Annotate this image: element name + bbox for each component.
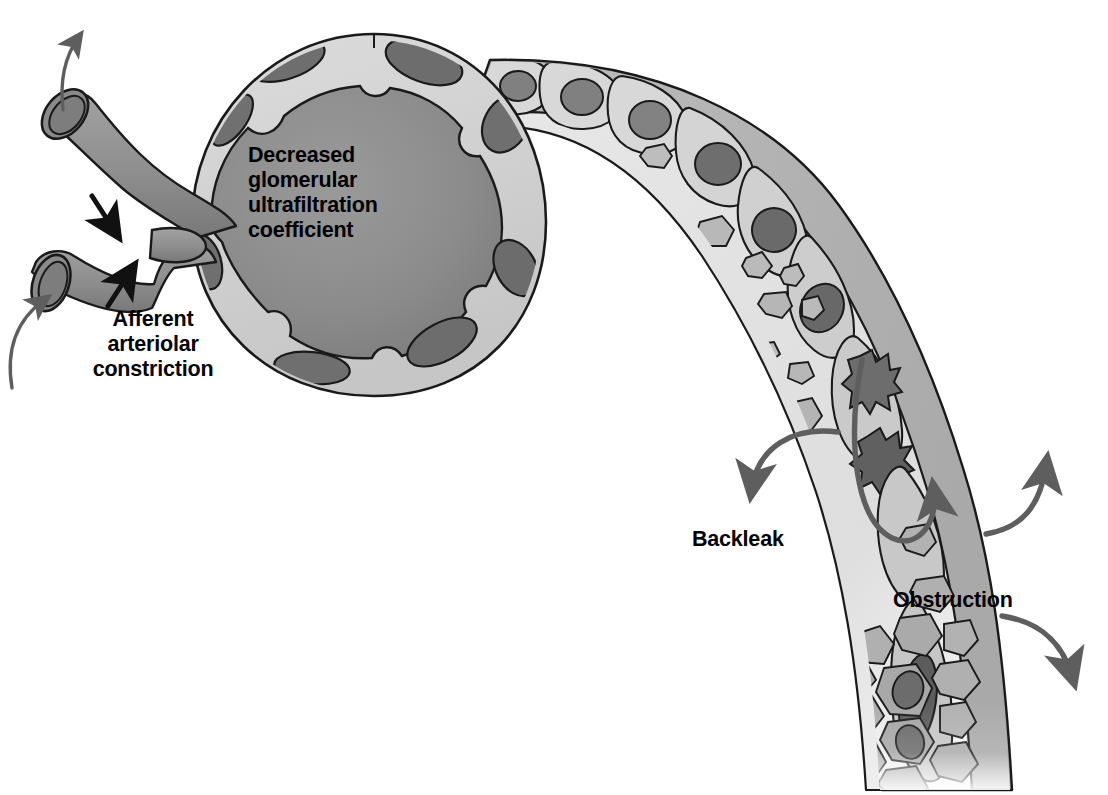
label-obstruction: Obstruction xyxy=(893,588,1013,613)
afferent-line-3: constriction xyxy=(93,357,214,381)
obstruction-pressure-arrow-upper xyxy=(986,466,1046,534)
gufc-line-2: glomerular xyxy=(248,168,357,192)
label-afferent-arteriolar-constriction: Afferentarteriolarconstriction xyxy=(88,307,218,382)
label-decreased-gufc: Decreasedglomerularultrafiltrationcoeffi… xyxy=(248,143,378,244)
figure-canvas: Decreasedglomerularultrafiltrationcoeffi… xyxy=(0,0,1108,795)
proximal-tubule xyxy=(470,57,1040,795)
constriction-arrow-upper xyxy=(92,196,114,230)
afferent-flow-arrow xyxy=(10,300,44,388)
afferent-line-2: arteriolar xyxy=(107,332,198,356)
label-backleak: Backleak xyxy=(692,527,784,552)
obstruction-pressure-arrow-lower xyxy=(1002,616,1072,676)
gufc-line-1: Decreased xyxy=(248,143,355,167)
constricted-neck xyxy=(150,228,206,262)
afferent-line-1: Afferent xyxy=(113,307,194,331)
gufc-line-4: coefficient xyxy=(248,218,353,242)
gufc-line-3: ultrafiltration xyxy=(248,193,378,217)
kidney-injury-diagram xyxy=(0,0,1108,795)
